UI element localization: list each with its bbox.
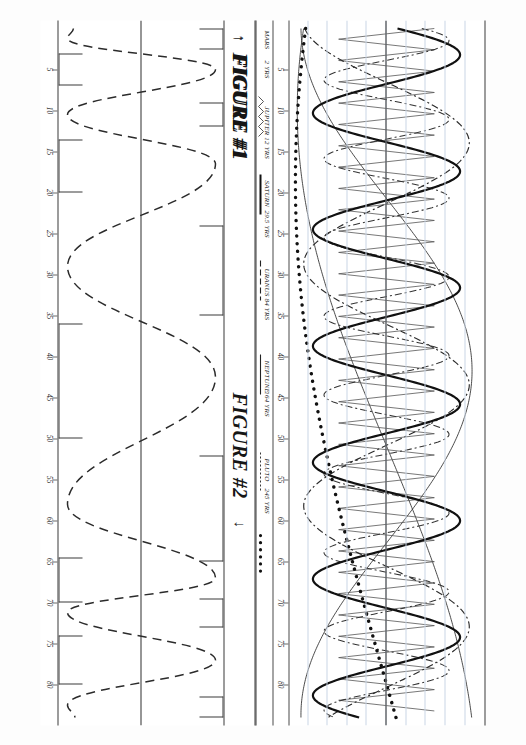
figure1-axis-band: 5101520253035404550556065707580 — [273, 20, 290, 725]
gridline — [347, 20, 348, 725]
figure1-axis-tick-label: 15 — [276, 147, 285, 154]
legend-planet-period: 12 YRS — [263, 137, 271, 159]
gridline — [425, 20, 426, 725]
figure1-axis-tick-label: 55 — [276, 475, 285, 482]
figure1-axis-tick-label: 35 — [276, 311, 285, 318]
figure2-title: FIGURE #2 — [228, 392, 251, 498]
figure2-bracket-x — [59, 635, 83, 684]
figure2-bracket-iii — [200, 102, 224, 127]
figure1-axis-tick-label: 50 — [276, 434, 285, 441]
figure2-axis-tick-label: 5 — [45, 67, 54, 71]
figure2-composite-wave — [68, 28, 216, 717]
figure2-canvas: BIRTHIIIVVIIIXXIIIIVVIVIIIX — [59, 20, 224, 725]
figure2-bracket-vii — [200, 455, 224, 562]
figure1-curves — [289, 20, 485, 725]
figure1-axis-tick-label: 80 — [276, 681, 285, 688]
figure2-title-band: ↑FIGURE #1FIGURE #2↓ — [224, 20, 256, 725]
figure1-axis-tick-label: 25 — [276, 229, 285, 236]
legend-planet-name: MARS — [263, 30, 271, 49]
figure2-axis-tick-label: 40 — [45, 352, 54, 359]
figure2-axis-tick-label: 80 — [45, 681, 54, 688]
figure2-axis-tick-label: 75 — [45, 640, 54, 647]
figure1-axis-tick-label: 5 — [276, 67, 285, 71]
figure2-bracket-vi — [59, 323, 83, 438]
figure2-zero-axis — [140, 20, 141, 725]
figure1-axis-tick-label: 65 — [276, 557, 285, 564]
figure1-axis-tick-label: 60 — [276, 516, 285, 523]
gridline — [445, 20, 446, 725]
legend-planet-period: 2 YRS — [263, 60, 271, 78]
figure1-canvas — [289, 20, 485, 725]
figure2-axis-tick-label: 15 — [45, 147, 54, 154]
figure2-arrow-icon: ↓ — [231, 520, 248, 528]
figure2-bracket-viii — [59, 557, 83, 602]
figure2-plot-area: BIRTHIIIVVIIIXXIIIIVVIVIIIX — [59, 20, 224, 725]
figure1-zero-axis — [385, 20, 386, 725]
figure1-axis-tick-label: 70 — [276, 599, 285, 606]
figure2-axis-tick-label: 25 — [45, 229, 54, 236]
gridline — [308, 20, 309, 725]
figure1-title: FIGURE #1 — [228, 54, 251, 160]
figure2-axis-tick-label: 65 — [45, 557, 54, 564]
legend-planet-name: URANUS — [263, 268, 271, 296]
figure2-bracket-ii — [59, 53, 83, 86]
figure1-axis-tick-label: 30 — [276, 270, 285, 277]
gridline — [406, 20, 407, 725]
legend-planet-period: 84 YRS — [263, 298, 271, 320]
figure2-bracket-v — [200, 225, 224, 315]
figure2-axis-tick-label: 50 — [45, 434, 54, 441]
legend-planet-period: 245 YRS — [263, 488, 271, 513]
figure1-axis-tick-label: 45 — [276, 393, 285, 400]
figure1-plot-area — [290, 20, 486, 725]
figure2-axis-band: 5101520253035404550556065707580 — [41, 20, 59, 725]
figure2-axis-tick-label: 35 — [45, 311, 54, 318]
legend-planet-period: 164 YRS — [263, 391, 271, 416]
figure2-axis-tick-label: 60 — [45, 516, 54, 523]
figure2-axis-tick-label: 20 — [45, 188, 54, 195]
figure1-axis-tick-label: 10 — [276, 106, 285, 113]
legend-swatch-pluto — [259, 534, 265, 574]
figure1-axis-tick-label: 40 — [276, 352, 285, 359]
figure2-bracket-birth — [200, 28, 224, 49]
figure2-axis-tick-label: 70 — [45, 599, 54, 606]
figure1-legend: MARS2 YRSJUPITER12 YRSSATURN29.5 YRSURAN… — [256, 20, 273, 725]
figure1-axis-tick-label: 75 — [276, 640, 285, 647]
figure2-axis-tick-label: 10 — [45, 106, 54, 113]
figure-sheet: 5101520253035404550556065707580 MARS2 YR… — [0, 0, 526, 745]
figure2-axis-tick-label: 30 — [45, 270, 54, 277]
figure2-bracket-iv — [59, 139, 83, 192]
legend-planet-name: SATURN — [263, 180, 271, 207]
legend-planet-period: 29.5 YRS — [263, 210, 271, 237]
gridline — [366, 20, 367, 725]
figure1-arrow-icon: ↑ — [231, 34, 248, 42]
gridline — [465, 20, 466, 725]
rotated-figure-stage: 5101520253035404550556065707580 MARS2 YR… — [41, 20, 486, 725]
figure2-bracket-ix — [200, 598, 224, 627]
figure2-axis-tick-label: 55 — [45, 475, 54, 482]
gridline — [327, 20, 328, 725]
legend-planet-name: JUPITER — [263, 106, 271, 135]
legend-planet-name: NEPTUNE — [263, 360, 271, 393]
figure2-axis-tick-label: 45 — [45, 393, 54, 400]
figure1-axis-tick-label: 20 — [276, 188, 285, 195]
legend-planet-name: PLUTO — [263, 458, 271, 481]
figure2-bracket-xi — [200, 696, 224, 717]
